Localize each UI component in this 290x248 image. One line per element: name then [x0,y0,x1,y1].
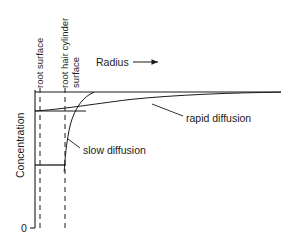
rapid-diffusion-leader-line [152,104,183,116]
rapid-diffusion-curve [35,92,281,111]
slow-diffusion-leader-line [68,139,80,148]
rapid-diffusion-label: rapid diffusion [186,112,251,124]
curves-group [35,92,281,172]
level-segments-group [35,111,86,165]
root-hair-cylinder-label-line2: surface [70,57,81,88]
y-axis-label: Concentration [14,112,26,178]
radius-arrow-icon [133,59,158,65]
slow-diffusion-curve [64,92,94,172]
x-axis-label: Radius [96,56,129,68]
root-hair-cylinder-label-line1: root hair cylinder [59,18,70,88]
slow-diffusion-label: slow diffusion [83,144,146,156]
root-surface-label: root surface [34,38,45,88]
diffusion-concentration-figure: Radius Concentration 0 root surface root… [0,0,290,248]
figure-canvas: Radius Concentration 0 root surface root… [0,0,290,248]
y-axis-origin-label: 0 [21,222,27,234]
